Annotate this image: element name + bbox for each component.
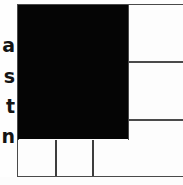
row-label-2: s — [0, 67, 15, 86]
right-column — [129, 5, 183, 176]
bottom-row-cell-3 — [94, 140, 129, 176]
right-column-cell-3 — [129, 121, 183, 176]
row-label-4: n — [0, 127, 15, 146]
scan-noise-band — [0, 177, 183, 185]
right-column-cell-1 — [129, 5, 183, 61]
screenshot-root: a s t n — [0, 0, 183, 185]
table-grid — [17, 4, 183, 177]
bottom-row — [18, 140, 129, 176]
bottom-row-cell-2 — [57, 140, 92, 176]
row-label-column: a s t n — [0, 0, 17, 185]
row-label-3: t — [0, 97, 15, 116]
bottom-row-cell-1 — [18, 140, 55, 176]
row-label-1: a — [0, 36, 15, 55]
right-column-cell-2 — [129, 63, 183, 119]
filled-black-cell — [18, 5, 129, 139]
